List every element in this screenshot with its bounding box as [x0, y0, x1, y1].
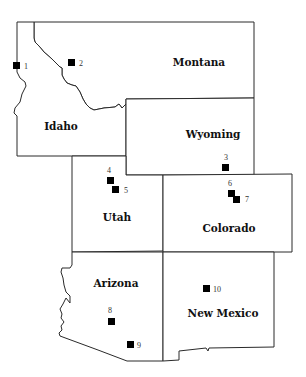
site-marker-icon: [222, 164, 229, 171]
state-label-arizona: Arizona: [92, 277, 138, 289]
site-label: 10: [213, 285, 221, 294]
site-marker-icon: [112, 186, 119, 193]
state-label-utah: Utah: [103, 211, 132, 223]
site-marker-icon: [127, 341, 134, 348]
site-label: 3: [224, 153, 228, 162]
site-label: 9: [137, 341, 141, 350]
site-label: 8: [108, 306, 112, 315]
site-label: 5: [124, 186, 128, 195]
state-label-montana: Montana: [173, 56, 226, 68]
state-label-wyoming: Wyoming: [185, 128, 241, 140]
state-label-colorado: Colorado: [202, 222, 255, 234]
site-marker-icon: [13, 62, 20, 69]
site-marker-icon: [233, 196, 240, 203]
site-label: 1: [24, 62, 28, 71]
site-marker-icon: [107, 177, 114, 184]
site-label: 2: [79, 59, 83, 68]
map-canvas: Montana Idaho Wyoming Utah Colorado Ariz…: [0, 0, 306, 377]
site-marker-icon: [203, 285, 210, 292]
site-label: 4: [107, 166, 111, 175]
site-label: 6: [228, 179, 232, 188]
site-marker-icon: [68, 59, 75, 66]
site-marker-icon: [228, 190, 235, 197]
state-label-new-mexico: New Mexico: [188, 307, 259, 319]
state-label-idaho: Idaho: [44, 120, 78, 132]
site-marker-icon: [108, 318, 115, 325]
site-label: 7: [245, 195, 249, 204]
